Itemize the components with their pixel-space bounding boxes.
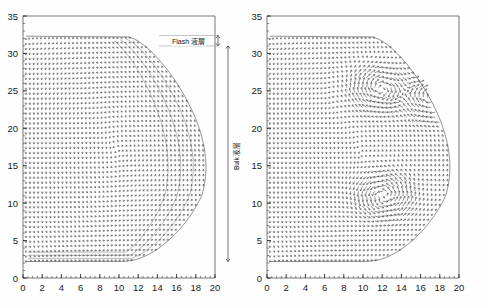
svg-text:20: 20 <box>251 123 262 134</box>
svg-text:0: 0 <box>20 282 25 293</box>
svg-text:8: 8 <box>341 282 346 293</box>
plot-panel-right: 0246810121416182005101520253035 <box>244 0 488 308</box>
svg-text:12: 12 <box>377 282 388 293</box>
svg-text:5: 5 <box>13 235 18 246</box>
svg-text:15: 15 <box>7 160 18 171</box>
vector-field-plot-left: 0246810121416182005101520253035 <box>0 0 244 308</box>
svg-text:12: 12 <box>133 282 144 293</box>
svg-text:18: 18 <box>435 282 446 293</box>
svg-text:10: 10 <box>114 282 125 293</box>
bulk-layer-annotation: Bulk 液層 <box>233 142 241 170</box>
svg-text:15: 15 <box>251 160 262 171</box>
svg-text:0: 0 <box>13 273 18 284</box>
svg-text:14: 14 <box>396 282 407 293</box>
svg-text:8: 8 <box>97 282 102 293</box>
flash-layer-annotation: Flash 液層 <box>171 37 206 46</box>
svg-text:10: 10 <box>358 282 369 293</box>
svg-text:20: 20 <box>210 282 221 293</box>
svg-text:35: 35 <box>251 11 262 22</box>
svg-text:4: 4 <box>303 282 308 293</box>
svg-text:30: 30 <box>251 48 262 59</box>
svg-text:0: 0 <box>264 282 269 293</box>
svg-text:30: 30 <box>7 48 18 59</box>
svg-text:4: 4 <box>59 282 64 293</box>
svg-text:6: 6 <box>78 282 83 293</box>
svg-text:10: 10 <box>7 198 18 209</box>
svg-text:20: 20 <box>7 123 18 134</box>
svg-text:20: 20 <box>454 282 465 293</box>
svg-text:10: 10 <box>251 198 262 209</box>
svg-text:2: 2 <box>40 282 45 293</box>
svg-text:6: 6 <box>322 282 327 293</box>
svg-text:0: 0 <box>257 273 262 284</box>
svg-text:14: 14 <box>152 282 163 293</box>
svg-text:2: 2 <box>284 282 289 293</box>
svg-text:25: 25 <box>7 85 18 96</box>
svg-text:35: 35 <box>7 11 18 22</box>
svg-text:25: 25 <box>251 85 262 96</box>
plot-panel-left: 0246810121416182005101520253035 Flash 液層… <box>0 0 244 308</box>
svg-text:18: 18 <box>191 282 202 293</box>
vector-field-plot-right: 0246810121416182005101520253035 <box>244 0 488 308</box>
svg-text:16: 16 <box>415 282 426 293</box>
svg-text:5: 5 <box>257 235 262 246</box>
svg-text:16: 16 <box>171 282 182 293</box>
figure-root: 0246810121416182005101520253035 Flash 液層… <box>0 0 488 308</box>
